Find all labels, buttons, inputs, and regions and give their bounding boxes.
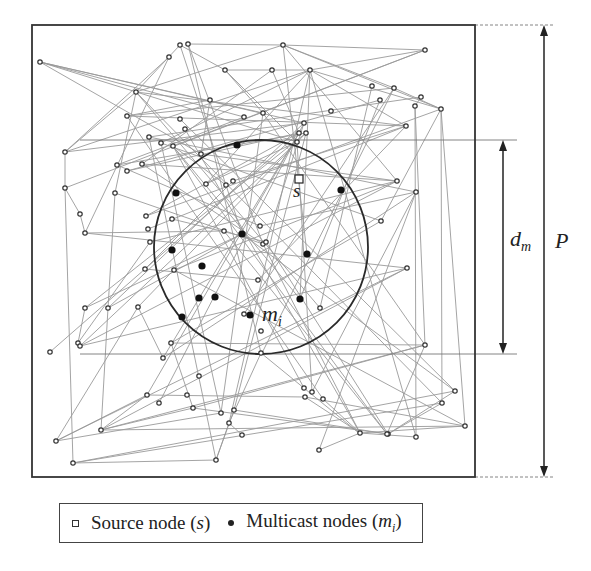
multicast-node — [233, 141, 240, 148]
regular-node — [185, 393, 189, 397]
network-diagram — [0, 0, 591, 500]
regular-node — [38, 60, 42, 64]
regular-node — [227, 421, 231, 425]
multicast-node — [195, 294, 202, 301]
regular-node — [83, 231, 87, 235]
multicast-node — [303, 250, 310, 257]
multicast-node — [198, 262, 205, 269]
regular-node — [385, 432, 389, 436]
regular-node — [113, 191, 117, 195]
regular-node — [304, 131, 308, 135]
regular-node — [63, 186, 67, 190]
square-icon — [72, 520, 79, 527]
regular-node — [125, 114, 129, 118]
network-edges — [40, 44, 465, 463]
regular-node — [134, 90, 138, 94]
regular-node — [310, 390, 314, 394]
regular-node — [423, 48, 427, 52]
multicast-node — [337, 186, 344, 193]
dm-dimension-label: dm — [510, 226, 531, 255]
regular-node — [358, 431, 362, 435]
regular-node — [157, 401, 161, 405]
regular-node — [378, 98, 382, 102]
regular-node — [63, 150, 67, 154]
regular-node — [321, 397, 325, 401]
regular-node — [144, 214, 148, 218]
regular-node — [186, 42, 190, 46]
regular-node — [302, 386, 306, 390]
regular-node — [148, 240, 152, 244]
regular-node — [414, 190, 418, 194]
regular-node — [140, 162, 144, 166]
regular-node — [295, 140, 299, 144]
regular-node — [199, 152, 203, 156]
regular-node — [169, 341, 173, 345]
regular-node — [222, 229, 226, 233]
multicast-node — [168, 246, 175, 253]
regular-node — [423, 343, 427, 347]
regular-node — [413, 104, 417, 108]
regular-node — [99, 428, 103, 432]
regular-node — [143, 267, 147, 271]
regular-node — [223, 68, 227, 72]
regular-node — [405, 266, 409, 270]
regular-node — [414, 435, 418, 439]
regular-node — [242, 115, 246, 119]
regular-node — [78, 212, 82, 216]
regular-node — [204, 182, 208, 186]
regular-node — [404, 124, 408, 128]
regular-node — [214, 458, 218, 462]
regular-node — [453, 389, 457, 393]
regular-node — [136, 305, 140, 309]
regular-node — [419, 95, 423, 99]
regular-node — [208, 98, 212, 102]
regular-node — [78, 344, 82, 348]
legend-source-text: Source node (s) — [91, 512, 210, 534]
regular-node — [317, 448, 321, 452]
regular-node — [147, 135, 151, 139]
regular-node — [308, 68, 312, 72]
regular-node — [183, 127, 187, 131]
regular-node — [259, 351, 263, 355]
multicast-node — [296, 295, 303, 302]
regular-node — [370, 84, 374, 88]
p-dimension-label: P — [555, 228, 568, 254]
regular-node — [54, 439, 58, 443]
multicast-node — [178, 313, 185, 320]
regular-node — [264, 240, 268, 244]
regular-node — [440, 401, 444, 405]
regular-node — [297, 131, 301, 135]
regular-node — [463, 424, 467, 428]
regular-node — [392, 86, 396, 90]
regular-node — [318, 306, 322, 310]
regular-node — [303, 395, 307, 399]
regular-node — [219, 411, 223, 415]
regular-node — [232, 408, 236, 412]
regular-node — [172, 268, 176, 272]
regular-node — [281, 43, 285, 47]
legend: Source node (s) Multicast nodes (mi) — [59, 503, 423, 543]
regular-node — [256, 278, 260, 282]
regular-node — [171, 144, 175, 148]
regular-node — [170, 217, 174, 221]
multicast-node — [172, 189, 179, 196]
regular-node — [242, 312, 246, 316]
regular-node — [231, 179, 235, 183]
source-node-label: s — [293, 180, 300, 202]
regular-node — [125, 169, 129, 173]
regular-node — [178, 43, 182, 47]
multicast-node — [246, 311, 253, 318]
regular-node — [240, 433, 244, 437]
legend-multicast-text: Multicast nodes (mi) — [246, 510, 401, 536]
regular-node — [197, 374, 201, 378]
regular-node — [106, 306, 110, 310]
regular-node — [270, 68, 274, 72]
regular-node — [161, 356, 165, 360]
regular-node — [83, 306, 87, 310]
regular-node — [48, 350, 52, 354]
regular-node — [71, 461, 75, 465]
regular-node — [159, 141, 163, 145]
regular-node — [191, 406, 195, 410]
legend-item-source: Source node (s) — [72, 512, 210, 534]
legend-item-multicast: Multicast nodes (mi) — [228, 510, 401, 536]
